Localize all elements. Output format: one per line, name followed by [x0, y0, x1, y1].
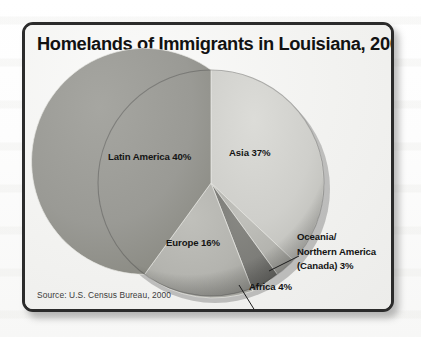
pie-callout-oceania-northern-america: Oceania/ Northern America (Canada) 3% [297, 230, 376, 274]
pie-label-europe: Europe 16% [166, 237, 220, 248]
pie-label-latin-america: Latin America 40% [108, 151, 191, 162]
source-note: Source: U.S. Census Bureau, 2000 [37, 290, 171, 300]
pie-callout-oceania-line-3: (Canada) 3% [297, 259, 376, 274]
chart-card: Homelands of Immigrants in Louisiana, 20… [22, 22, 394, 312]
pie-callout-oceania-line-2: Northern America [297, 245, 376, 260]
pie-callout-africa: Africa 4% [249, 280, 292, 295]
pie-callout-oceania-line-1: Oceania/ [297, 230, 376, 245]
pie-label-asia: Asia 37% [229, 147, 270, 158]
pie-rim-shading [98, 70, 324, 296]
